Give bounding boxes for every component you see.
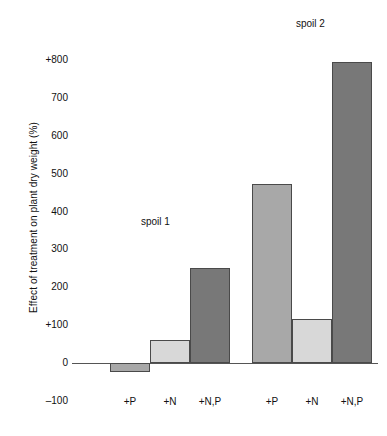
y-axis-tick-700: 700 <box>22 93 68 103</box>
y-axis-tick-600: 600 <box>22 131 68 141</box>
x-axis-tick-spoil1-n: +N <box>163 396 176 407</box>
plot-area <box>72 40 378 380</box>
y-axis-tick-400: 400 <box>22 207 68 217</box>
bar-spoil1-np <box>190 268 230 363</box>
bar-spoil1-n <box>150 340 190 363</box>
y-axis-tick-100: +100 <box>22 320 68 330</box>
bar-chart-figure: Effect of treatment on plant dry weight … <box>0 0 387 436</box>
bar-spoil2-p <box>252 184 292 363</box>
y-axis-tick-labels: +800700600500400300200+1000–100 <box>22 0 68 436</box>
bar-spoil2-n <box>292 319 332 363</box>
y-axis-tick--100: –100 <box>22 396 68 406</box>
y-axis-tick-0: 0 <box>22 358 68 368</box>
x-axis-tick-spoil1-np: +N,P <box>199 396 222 407</box>
group-annotation-spoil-1: spoil 1 <box>141 216 170 227</box>
x-axis-tick-spoil2-np: +N,P <box>341 396 364 407</box>
x-axis-tick-spoil2-n: +N <box>305 396 318 407</box>
x-axis-tick-spoil2-p: +P <box>266 396 279 407</box>
x-axis-tick-spoil1-p: +P <box>124 396 137 407</box>
y-axis-tick-500: 500 <box>22 169 68 179</box>
bar-spoil2-np <box>332 62 372 363</box>
y-axis-tick-200: 200 <box>22 282 68 292</box>
y-axis-tick-800: +800 <box>22 55 68 65</box>
bar-spoil1-p <box>110 363 150 372</box>
group-annotation-spoil-2: spoil 2 <box>296 18 325 29</box>
y-axis-tick-300: 300 <box>22 244 68 254</box>
